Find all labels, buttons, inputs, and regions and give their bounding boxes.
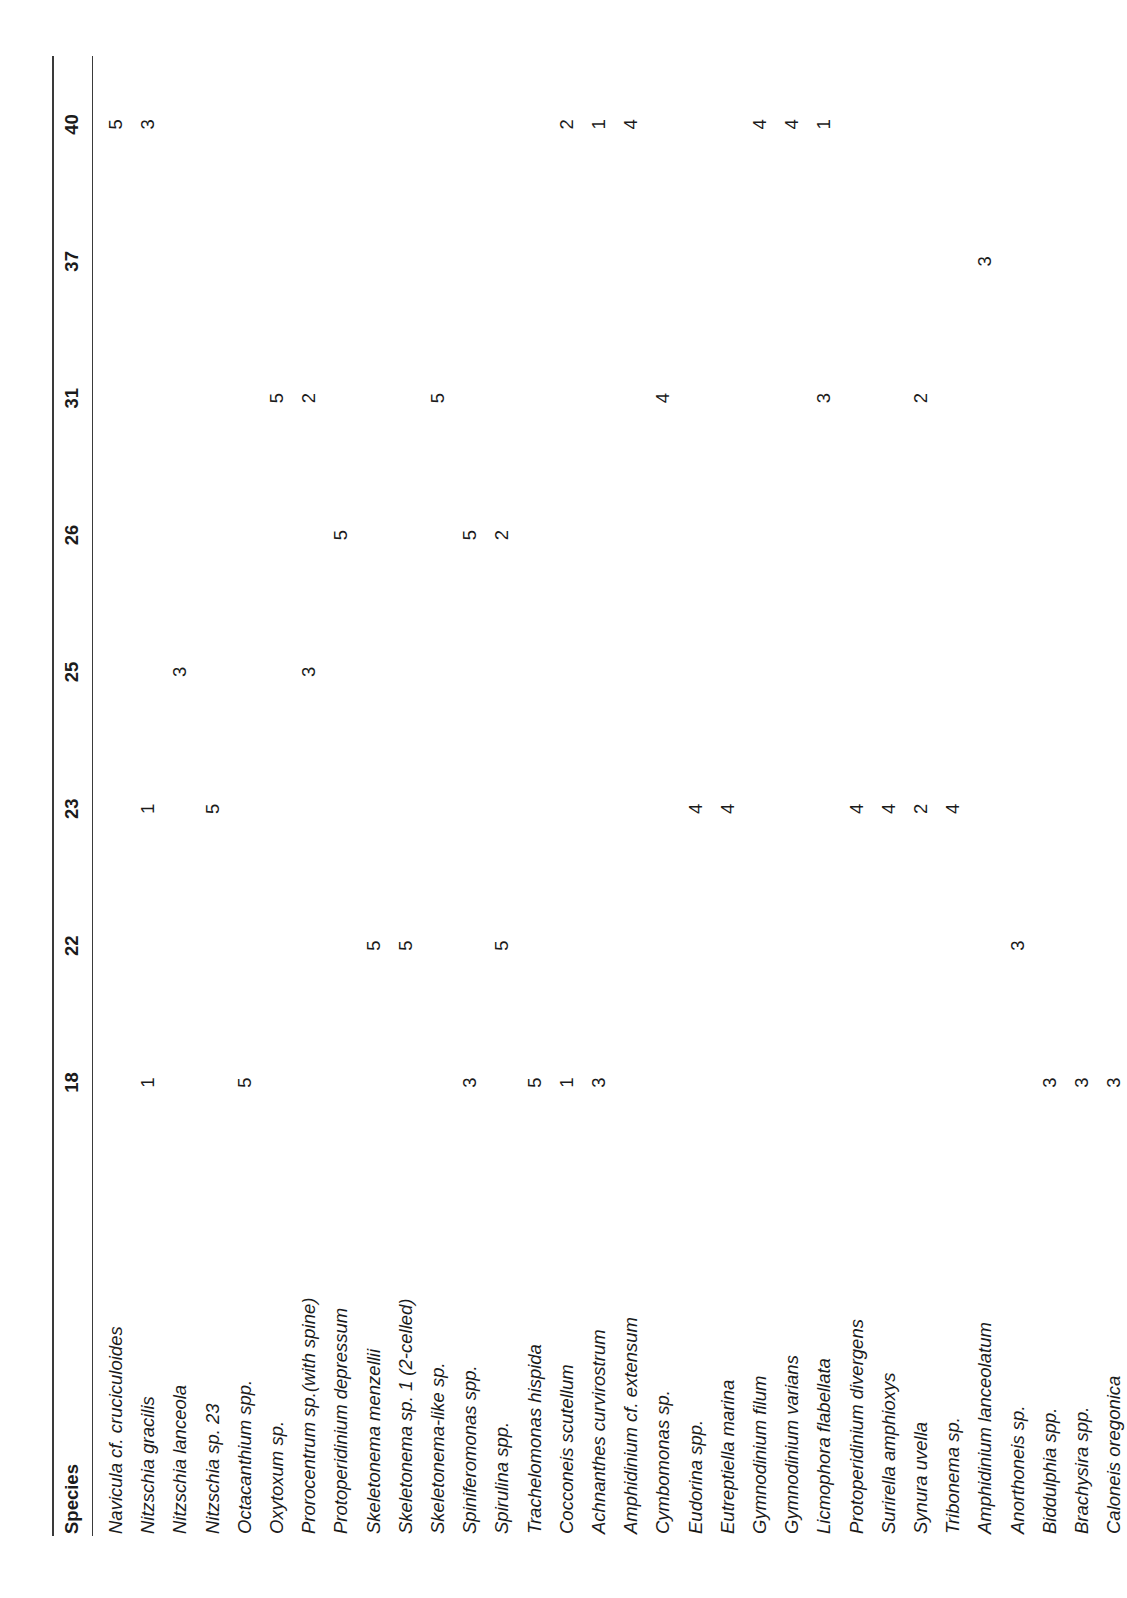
abundance-cell-26 <box>1066 467 1098 604</box>
abundance-cell-18 <box>937 1014 969 1151</box>
abundance-cell-25 <box>969 603 1001 740</box>
abundance-cell-25 <box>1034 603 1066 740</box>
abundance-cell-26: 2 <box>486 467 518 604</box>
abundance-cell-23: 4 <box>873 740 905 877</box>
abundance-cell-23 <box>1066 740 1098 877</box>
abundance-cell-40 <box>680 56 712 193</box>
abundance-cell-22 <box>583 877 615 1014</box>
abundance-cell-26 <box>808 467 840 604</box>
species-name-cell: Skeletonema menzellii <box>358 1151 390 1536</box>
table-row: Biddulphia spp.3 <box>1034 56 1066 1536</box>
abundance-cell-22 <box>1066 877 1098 1014</box>
species-name-cell: Achnanthes curvirostrum <box>583 1151 615 1536</box>
abundance-cell-23 <box>1098 740 1127 877</box>
abundance-cell-25: 3 <box>164 603 196 740</box>
abundance-cell-37 <box>776 193 808 330</box>
species-name-cell: Licmophora flabellata <box>808 1151 840 1536</box>
abundance-cell-37 <box>261 193 293 330</box>
abundance-cell-25 <box>229 603 261 740</box>
table-row: Navicula cf. cruciculoides5 <box>93 56 133 1536</box>
abundance-cell-25 <box>873 603 905 740</box>
abundance-cell-37 <box>197 193 229 330</box>
species-name-cell: Prorocentrum sp.(with spine) <box>293 1151 325 1536</box>
abundance-cell-25: 3 <box>293 603 325 740</box>
species-name-cell: Navicula cf. cruciculoides <box>93 1151 133 1536</box>
abundance-cell-37 <box>1034 193 1066 330</box>
column-header-37: 37 <box>53 193 93 330</box>
abundance-cell-25 <box>132 603 164 740</box>
abundance-cell-22 <box>422 877 454 1014</box>
abundance-cell-18: 5 <box>519 1014 551 1151</box>
abundance-cell-25 <box>712 603 744 740</box>
abundance-cell-31 <box>551 330 583 467</box>
abundance-cell-25 <box>358 603 390 740</box>
abundance-cell-31 <box>1002 330 1034 467</box>
abundance-cell-23 <box>358 740 390 877</box>
species-name-cell: Amphidinium lanceolatum <box>969 1151 1001 1536</box>
abundance-cell-37 <box>93 193 133 330</box>
abundance-cell-25 <box>615 603 647 740</box>
abundance-cell-26 <box>744 467 776 604</box>
table-row: Skeletonema menzellii5 <box>358 56 390 1536</box>
abundance-cell-31 <box>197 330 229 467</box>
table-row: Spiniferomonas spp.35 <box>454 56 486 1536</box>
species-name-cell: Eudorina spp. <box>680 1151 712 1536</box>
abundance-cell-40 <box>293 56 325 193</box>
abundance-cell-40 <box>841 56 873 193</box>
abundance-cell-31 <box>454 330 486 467</box>
abundance-cell-22 <box>261 877 293 1014</box>
abundance-cell-40: 5 <box>93 56 133 193</box>
abundance-cell-26 <box>776 467 808 604</box>
abundance-cell-18 <box>615 1014 647 1151</box>
abundance-cell-40 <box>647 56 679 193</box>
table-row: Oxytoxum sp.5 <box>261 56 293 1536</box>
abundance-cell-25 <box>1066 603 1098 740</box>
abundance-cell-40 <box>1034 56 1066 193</box>
abundance-cell-18: 3 <box>454 1014 486 1151</box>
abundance-cell-37 <box>808 193 840 330</box>
table-row: Nitzschia gracilis113 <box>132 56 164 1536</box>
abundance-cell-26 <box>1002 467 1034 604</box>
abundance-cell-31 <box>164 330 196 467</box>
species-name-cell: Biddulphia spp. <box>1034 1151 1066 1536</box>
abundance-cell-23: 5 <box>197 740 229 877</box>
abundance-cell-26 <box>261 467 293 604</box>
abundance-cell-37 <box>454 193 486 330</box>
abundance-cell-26: 5 <box>454 467 486 604</box>
abundance-cell-26 <box>197 467 229 604</box>
abundance-cell-40 <box>905 56 937 193</box>
abundance-cell-18 <box>969 1014 1001 1151</box>
abundance-cell-26 <box>647 467 679 604</box>
abundance-cell-40: 2 <box>551 56 583 193</box>
column-header-40: 40 <box>53 56 93 193</box>
abundance-cell-31 <box>1034 330 1066 467</box>
abundance-cell-31: 2 <box>905 330 937 467</box>
abundance-cell-26 <box>551 467 583 604</box>
table-row: Anorthoneis sp.3 <box>1002 56 1034 1536</box>
abundance-cell-22 <box>1098 877 1127 1014</box>
abundance-cell-25 <box>647 603 679 740</box>
abundance-cell-26 <box>519 467 551 604</box>
table-body: Navicula cf. cruciculoides5Nitzschia gra… <box>93 56 1127 1536</box>
abundance-cell-37 <box>1002 193 1034 330</box>
abundance-cell-40 <box>261 56 293 193</box>
abundance-cell-23 <box>93 740 133 877</box>
abundance-cell-22: 5 <box>486 877 518 1014</box>
species-name-cell: Caloneis oregonica <box>1098 1151 1127 1536</box>
abundance-cell-18 <box>390 1014 422 1151</box>
abundance-cell-18: 3 <box>1034 1014 1066 1151</box>
abundance-cell-18: 1 <box>551 1014 583 1151</box>
abundance-cell-40 <box>325 56 357 193</box>
abundance-cell-31 <box>937 330 969 467</box>
abundance-cell-40 <box>197 56 229 193</box>
abundance-cell-23 <box>519 740 551 877</box>
table-row: Trachelomonas hispida5 <box>519 56 551 1536</box>
abundance-cell-37 <box>905 193 937 330</box>
abundance-cell-25 <box>261 603 293 740</box>
species-name-cell: Protoperidinium depressum <box>325 1151 357 1536</box>
species-name-cell: Oxytoxum sp. <box>261 1151 293 1536</box>
abundance-cell-22 <box>744 877 776 1014</box>
abundance-cell-22 <box>454 877 486 1014</box>
abundance-cell-31 <box>358 330 390 467</box>
column-header-18: 18 <box>53 1014 93 1151</box>
